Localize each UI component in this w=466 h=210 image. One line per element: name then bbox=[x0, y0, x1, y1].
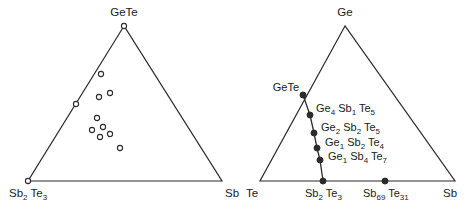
pseudo-ternary-sb2te3-gete-sb: GeTeSb2 Te3Sb bbox=[9, 6, 239, 202]
ternary-te-ge-sb-phase-label-4: Ge1 Sb4 Te7 bbox=[328, 150, 388, 165]
pseudo-ternary-sb2te3-gete-sb-open-point-i1 bbox=[96, 94, 101, 99]
ternary-te-ge-sb-filled-point-t5 bbox=[320, 178, 326, 184]
ternary-te-ge-sb-phase-label-0: GeTe bbox=[273, 81, 299, 93]
ternary-te-ge-sb-filled-point-t4 bbox=[317, 157, 323, 163]
pseudo-ternary-sb2te3-gete-sb-open-point-i2 bbox=[94, 115, 99, 120]
ternary-te-ge-sb-phase-label-5: Sb2 Te3 bbox=[305, 187, 342, 202]
ternary-te-ge-sb-filled-point-t0 bbox=[300, 92, 306, 98]
ternary-te-ge-sb-vertex-label-bottom-left: Te bbox=[246, 187, 258, 199]
ternary-te-ge-sb-phase-label-3: Ge1 Sb2 Te4 bbox=[325, 136, 385, 151]
pseudo-ternary-sb2te3-gete-sb-vertex-label-bottom-right: Sb bbox=[225, 187, 239, 199]
pseudo-ternary-sb2te3-gete-sb-open-point-v1 bbox=[25, 178, 30, 183]
pseudo-ternary-sb2te3-gete-sb-open-point-i3 bbox=[89, 127, 94, 132]
ternary-te-ge-sb-vertex-label-apex: Ge bbox=[337, 6, 352, 18]
pseudo-ternary-sb2te3-gete-sb-open-point-i0 bbox=[107, 90, 112, 95]
pseudo-ternary-sb2te3-gete-sb-open-point-v0 bbox=[121, 23, 126, 28]
pseudo-ternary-sb2te3-gete-sb-open-point-e1 bbox=[73, 101, 78, 106]
ternary-te-ge-sb-phase-label-1: Ge4 Sb1 Te5 bbox=[316, 102, 376, 117]
pseudo-ternary-sb2te3-gete-sb-triangle-outline bbox=[28, 26, 222, 181]
ternary-te-ge-sb: GeTeSbGeTeGe4 Sb1 Te5Ge2 Sb2 Te5Ge1 Sb2 … bbox=[246, 6, 457, 202]
pseudo-ternary-sb2te3-gete-sb-open-point-i6 bbox=[107, 131, 112, 136]
ternary-te-ge-sb-filled-point-t3 bbox=[314, 145, 320, 151]
pseudo-ternary-sb2te3-gete-sb-open-point-i7 bbox=[117, 145, 122, 150]
pseudo-ternary-sb2te3-gete-sb-vertex-label-bottom-left: Sb2 Te3 bbox=[9, 187, 48, 202]
pseudo-ternary-sb2te3-gete-sb-open-point-i5 bbox=[97, 134, 102, 139]
ternary-te-ge-sb-baseline-label-0: Sb69 Te31 bbox=[363, 187, 409, 202]
ternary-te-ge-sb-filled-point-t1 bbox=[307, 112, 313, 118]
ternary-te-ge-sb-filled-point-b0 bbox=[382, 178, 388, 184]
ternary-te-ge-sb-vertex-label-bottom-right: Sb bbox=[443, 187, 457, 199]
ternary-te-ge-sb-phase-label-2: Ge2 Sb2 Te5 bbox=[321, 121, 381, 136]
ternary-diagram-canvas: GeTeSb2 Te3SbGeTeSbGeTeGe4 Sb1 Te5Ge2 Sb… bbox=[0, 0, 466, 210]
pseudo-ternary-sb2te3-gete-sb-open-point-e0 bbox=[98, 71, 103, 76]
figure-root: GeTeSb2 Te3SbGeTeSbGeTeGe4 Sb1 Te5Ge2 Sb… bbox=[0, 0, 466, 210]
pseudo-ternary-sb2te3-gete-sb-vertex-label-apex: GeTe bbox=[110, 6, 138, 18]
pseudo-ternary-sb2te3-gete-sb-open-point-i4 bbox=[100, 124, 105, 129]
ternary-te-ge-sb-filled-point-t2 bbox=[311, 130, 317, 136]
